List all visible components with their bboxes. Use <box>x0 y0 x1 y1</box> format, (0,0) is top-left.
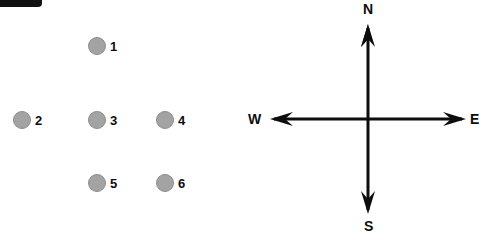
dot-label: 2 <box>35 114 42 127</box>
compass-label-west: W <box>248 112 261 126</box>
compass-label-east: E <box>470 112 479 126</box>
dot-marker <box>156 174 174 192</box>
dot-label: 4 <box>178 114 185 127</box>
dot-label: 1 <box>110 40 117 53</box>
compass-label-north: N <box>363 2 373 16</box>
dot-label: 3 <box>110 114 117 127</box>
dot-marker <box>88 37 106 55</box>
dot-label: 6 <box>178 177 185 190</box>
dot-marker <box>13 111 31 129</box>
compass-label-south: S <box>364 219 373 233</box>
corner-black-bar <box>0 0 42 7</box>
dot-marker <box>156 111 174 129</box>
compass-rose-icon <box>260 14 476 224</box>
dot-marker <box>88 111 106 129</box>
dot-marker <box>88 174 106 192</box>
figure-canvas: 1 2 3 4 5 6 N E S W <box>0 0 496 238</box>
dot-label: 5 <box>110 177 117 190</box>
